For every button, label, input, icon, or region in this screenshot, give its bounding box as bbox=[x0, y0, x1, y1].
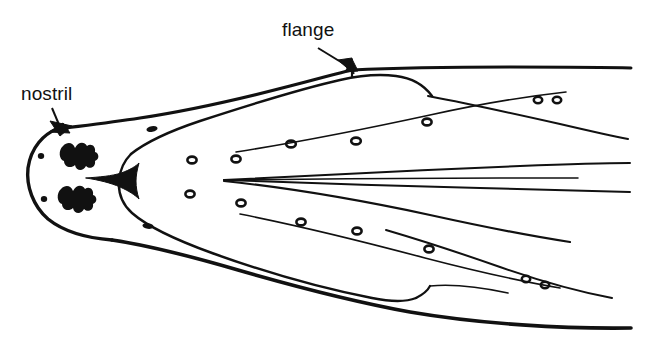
nostril-label: nostril bbox=[21, 84, 72, 103]
anatomical-figure: nostril flange bbox=[0, 0, 648, 346]
flange-label: flange bbox=[282, 20, 334, 39]
snout-line-drawing bbox=[0, 0, 648, 346]
speck-1 bbox=[38, 153, 44, 159]
speck-2 bbox=[41, 196, 47, 202]
